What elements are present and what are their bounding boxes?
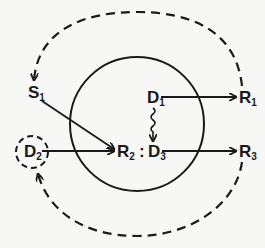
node-r3-letter: R xyxy=(239,142,251,161)
node-r1: R1 xyxy=(239,89,257,108)
dashed-arc-r1-to-s1 xyxy=(34,12,242,86)
node-d1-sub: 1 xyxy=(159,97,165,108)
separator-colon: : xyxy=(139,143,145,160)
dashed-arc-r3-to-d2 xyxy=(38,162,242,236)
separator-text: : xyxy=(139,142,145,161)
node-d2-sub: 2 xyxy=(36,151,42,162)
node-r3: R3 xyxy=(239,143,257,162)
node-d3-letter: D xyxy=(148,142,160,161)
node-d3-sub: 3 xyxy=(160,151,166,162)
system-boundary-circle xyxy=(70,57,204,191)
node-s1-sub: 1 xyxy=(39,92,45,103)
node-r3-sub: 3 xyxy=(251,151,257,162)
node-r1-sub: 1 xyxy=(251,97,257,108)
node-r2-letter: R xyxy=(117,142,129,161)
node-d3: D3 xyxy=(148,143,166,162)
node-s1-letter: S xyxy=(28,83,39,102)
wavy-arrow-d1-to-d3 xyxy=(151,108,155,141)
node-r2-sub: 2 xyxy=(129,151,135,162)
diagram-canvas xyxy=(0,0,265,248)
node-r2: R2 xyxy=(117,143,135,162)
node-s1: S1 xyxy=(28,84,45,103)
node-r1-letter: R xyxy=(239,88,251,107)
node-d2-letter: D xyxy=(24,142,36,161)
diagram: S1 D1 R1 D2 R2 : D3 R3 xyxy=(0,0,265,248)
node-d2: D2 xyxy=(24,143,42,162)
node-d1: D1 xyxy=(147,89,165,108)
arrow-s1-to-r2 xyxy=(42,101,114,149)
node-d1-letter: D xyxy=(147,88,159,107)
